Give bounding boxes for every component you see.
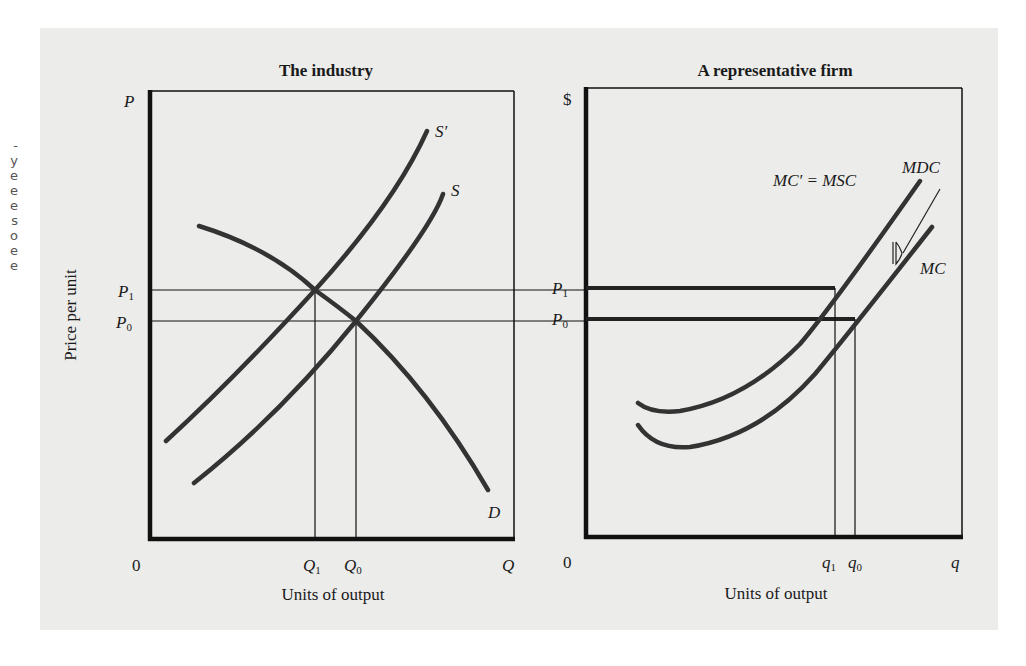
firm-chart: A representative firm MC′ = MSC MDC MC $… bbox=[551, 61, 963, 603]
demand-curve-d bbox=[199, 226, 488, 490]
industry-chart: The industry S′ S D P P1 P0 Price per un… bbox=[61, 61, 588, 604]
q1-tick-label: q1 bbox=[822, 553, 836, 573]
q0-tick-label: Q0 bbox=[344, 556, 362, 576]
s-label: S bbox=[451, 181, 460, 200]
y-axis-symbol: P bbox=[123, 92, 134, 111]
p1-tick-label: P1 bbox=[117, 282, 134, 302]
msc-label: MC′ = MSC bbox=[772, 171, 857, 190]
d-label: D bbox=[487, 503, 501, 522]
figure-canvas: The industry S′ S D P P1 P0 Price per un… bbox=[0, 0, 1026, 666]
origin-label: 0 bbox=[132, 556, 141, 575]
mdc-label: MDC bbox=[901, 158, 940, 177]
q0-tick-label: q0 bbox=[848, 553, 863, 573]
x-axis-symbol: Q bbox=[502, 556, 514, 575]
x-axis-symbol: q bbox=[951, 553, 960, 572]
q1-tick-label: Q1 bbox=[303, 556, 321, 576]
firm-title: A representative firm bbox=[697, 61, 852, 80]
industry-title: The industry bbox=[279, 61, 373, 80]
p0-tick-label: P0 bbox=[115, 313, 132, 333]
x-axis-label: Units of output bbox=[282, 585, 385, 604]
x-axis-label: Units of output bbox=[725, 584, 828, 603]
p1-tick-label: P1 bbox=[551, 279, 568, 299]
mc-curve bbox=[638, 227, 932, 447]
supply-curve-s-prime bbox=[166, 131, 427, 441]
s-prime-label: S′ bbox=[435, 122, 448, 141]
y-axis-symbol: $ bbox=[563, 90, 572, 109]
mdc-brace bbox=[893, 242, 902, 264]
origin-label: 0 bbox=[563, 553, 572, 572]
y-axis-label: Price per unit bbox=[61, 269, 80, 361]
p0-tick-label: P0 bbox=[551, 310, 568, 330]
mc-label: MC bbox=[919, 259, 946, 278]
